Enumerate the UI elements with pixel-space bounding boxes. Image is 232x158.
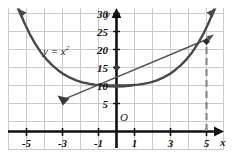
x-axis-arrow — [214, 127, 224, 137]
x-tick-label-5: 5 — [195, 138, 218, 149]
x-tick-label-neg5: -5 — [15, 138, 38, 149]
y-tick-label-15: 15 — [84, 63, 108, 74]
function-label: y = x2 — [43, 45, 69, 57]
x-axis-label: x — [220, 137, 226, 148]
parabola-left-arrow — [17, 8, 27, 18]
x-tick-label-3: 3 — [159, 138, 182, 149]
graph-figure: 30 25 20 15 10 5 -5 -3 -1 1 3 5 y x O y … — [0, 0, 232, 158]
x-tick-label-neg1: -1 — [87, 138, 110, 149]
y-axis-label: y — [105, 9, 110, 20]
function-label-exponent: 2 — [66, 44, 70, 52]
y-tick-label-5: 5 — [84, 99, 108, 110]
origin-label: O — [120, 112, 128, 123]
point-y-intercept — [114, 65, 119, 70]
y-tick-label-25: 25 — [84, 27, 108, 38]
x-tick-label-1: 1 — [123, 138, 146, 149]
parabola-right-arrow — [207, 8, 217, 18]
y-tick-label-20: 20 — [84, 45, 108, 56]
coordinate-plane — [0, 0, 232, 158]
function-label-text: y = x — [43, 45, 66, 57]
y-tick-label-10: 10 — [84, 81, 108, 92]
x-tick-label-neg3: -3 — [51, 138, 74, 149]
